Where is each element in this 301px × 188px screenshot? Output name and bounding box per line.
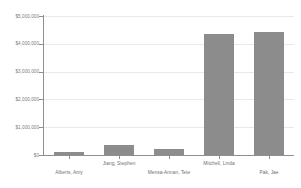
x-axis-label: Mitchell, Linda <box>179 161 259 167</box>
x-axis-tick <box>119 156 120 159</box>
y-axis-label-wrap: $1,000,000 <box>0 125 39 130</box>
plot-area <box>44 16 294 155</box>
x-axis-label: Pak, Jae <box>229 170 301 176</box>
x-axis-label: Mensa-Annan, Tete <box>129 170 209 176</box>
y-axis-label: $3,000,000 <box>1 69 39 74</box>
y-axis-tick <box>39 44 43 45</box>
y-axis-tick <box>39 155 43 156</box>
y-axis-label: $5,000,000 <box>1 14 39 19</box>
y-axis-label: $1,000,000 <box>1 125 39 130</box>
y-axis-tick <box>39 72 43 73</box>
y-axis-label-wrap: $5,000,000 <box>0 14 39 19</box>
x-axis-tick <box>269 156 270 159</box>
y-axis-label-wrap: $4,000,000 <box>0 41 39 46</box>
x-axis-label: Alberts, Amy <box>29 170 109 176</box>
y-axis-label-wrap: $0 <box>0 153 39 158</box>
bar-chart: $0$1,000,000$2,000,000$3,000,000$4,000,0… <box>0 0 301 188</box>
bar <box>104 145 134 155</box>
y-axis-tick <box>39 127 43 128</box>
bar <box>254 32 284 155</box>
y-axis-label-wrap: $2,000,000 <box>0 97 39 102</box>
x-axis-tick <box>219 156 220 159</box>
y-axis-tick <box>39 16 43 17</box>
y-axis-label-wrap: $3,000,000 <box>0 69 39 74</box>
x-axis-label: Jiang, Stephen <box>79 161 159 167</box>
y-axis-label: $4,000,000 <box>1 41 39 46</box>
y-axis-tick <box>39 99 43 100</box>
x-axis-tick <box>69 156 70 159</box>
gridline <box>44 16 294 17</box>
y-axis-label: $0 <box>1 153 39 158</box>
y-axis-label: $2,000,000 <box>1 97 39 102</box>
bar <box>204 34 234 155</box>
x-axis-tick <box>169 156 170 159</box>
y-axis-line <box>43 15 44 156</box>
